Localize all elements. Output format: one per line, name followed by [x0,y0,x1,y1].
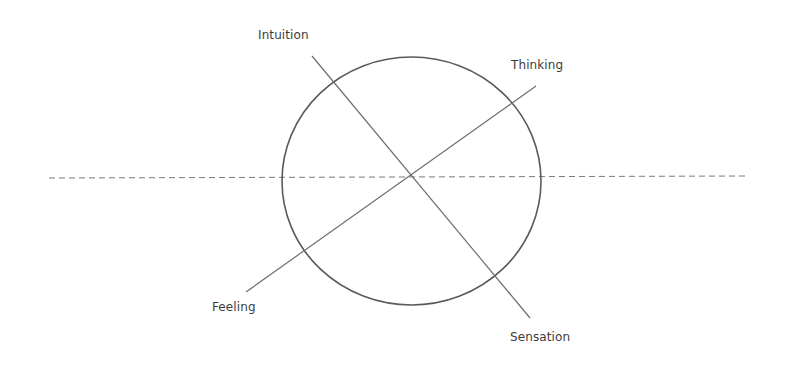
intuition-sensation-axis [312,56,530,318]
label-feeling: Feeling [212,300,256,314]
label-thinking: Thinking [511,58,563,72]
label-sensation: Sensation [510,330,570,344]
psyche-circle [282,57,541,305]
horizon-dashed-line [49,176,748,178]
jung-functions-diagram: Intuition Thinking Feeling Sensation [0,0,788,368]
thinking-feeling-axis [246,86,536,292]
label-intuition: Intuition [258,28,309,42]
diagram-canvas [0,0,788,368]
